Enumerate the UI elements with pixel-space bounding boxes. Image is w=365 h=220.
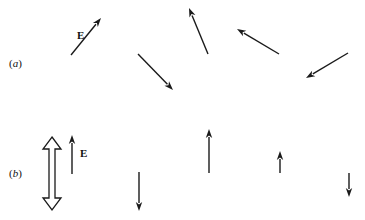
field-vector-label-b: E — [80, 148, 87, 159]
field-arrow-icon — [136, 172, 142, 211]
field-arrow-icon — [138, 54, 173, 90]
panel-a-unpolarized — [71, 8, 348, 90]
double-arrow-icon — [43, 137, 61, 210]
field-arrow-icon — [69, 135, 75, 174]
field-arrow-icon — [306, 53, 348, 78]
panel-a-label: (a) — [9, 58, 22, 69]
field-arrow-icon — [189, 8, 208, 54]
field-arrow-icon — [71, 18, 101, 55]
field-arrow-icon — [277, 151, 283, 173]
field-vector-label-a: E — [77, 30, 84, 41]
field-arrow-icon — [237, 29, 279, 54]
panel-b-label: (b) — [9, 168, 22, 179]
panel-a-label-text: (a) — [9, 57, 22, 69]
field-arrow-icon — [206, 129, 212, 173]
panel-b-label-text: (b) — [9, 167, 22, 179]
panel-b-polarized — [43, 129, 352, 211]
polarization-diagram — [0, 0, 365, 220]
field-arrow-icon — [346, 173, 352, 197]
